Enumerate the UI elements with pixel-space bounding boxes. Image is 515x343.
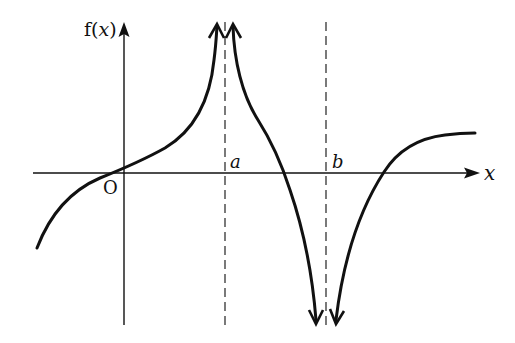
asymptote-a-label: a: [230, 151, 241, 172]
curve-branch-right: [336, 133, 475, 320]
curve-branch-left: [37, 26, 217, 248]
x-axis-label: x: [484, 161, 495, 185]
origin-label: O: [103, 177, 118, 198]
function-graph: f(x) x O a b: [0, 0, 515, 343]
y-axis-label: f(x): [84, 18, 117, 40]
asymptote-b-label: b: [332, 151, 344, 172]
